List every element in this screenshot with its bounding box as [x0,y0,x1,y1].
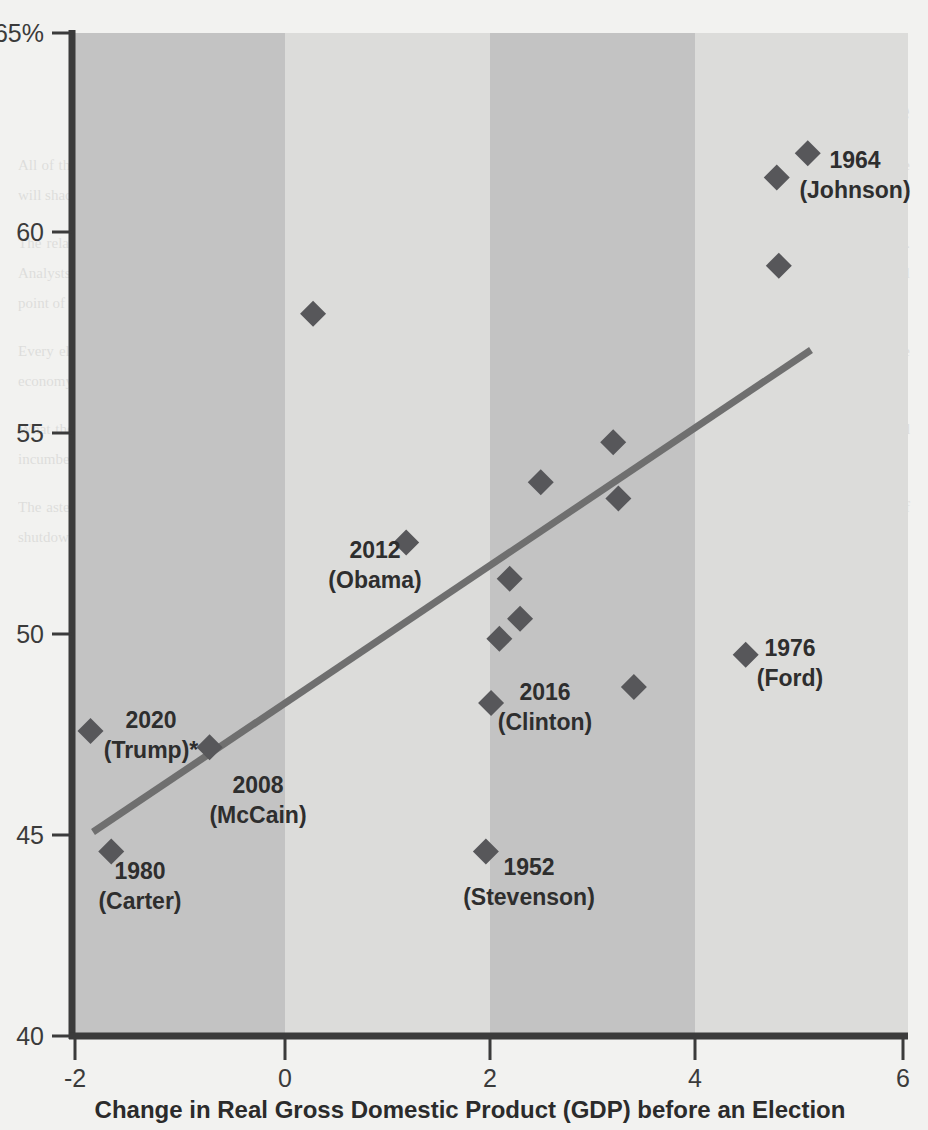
label-1976-name: (Ford) [757,665,823,691]
y-tick-label-60: 60 [16,218,44,246]
x-tick-label-2: 2 [483,1064,497,1092]
label-2020-name: (Trump)* [104,737,199,763]
y-axis: 65% 60 55 50 45 40 [0,19,72,1050]
band-dark-neg2-to-0 [72,33,285,1036]
label-2020-year: 2020 [125,707,176,733]
label-2016-name: (Clinton) [498,709,593,735]
label-1980-name: (Carter) [98,888,181,914]
y-tick-label-50: 50 [16,620,44,648]
label-2016-year: 2016 [519,679,570,705]
x-tick-label-0: 0 [278,1064,292,1092]
y-tick-label-40: 40 [16,1022,44,1050]
label-1964-year: 1964 [829,147,880,173]
label-1952-name: (Stevenson) [463,884,595,910]
x-tick-label-4: 4 [688,1064,702,1092]
label-2008-year: 2008 [232,772,283,798]
label-1976-year: 1976 [764,635,815,661]
x-tick-label-6: 6 [896,1064,910,1092]
label-1952-year: 1952 [503,854,554,880]
label-2008-name: (McCain) [209,802,306,828]
band-light-0-to-2 [285,33,490,1036]
y-tick-label-65: 65% [0,19,44,47]
chart-container: Setting the stage All of these are just … [0,0,928,1130]
y-tick-label-45: 45 [16,821,44,849]
scatter-plot: 65% 60 55 50 45 40 -2 0 2 4 6 Change in … [0,0,928,1130]
label-1980-year: 1980 [114,858,165,884]
label-2012-year: 2012 [349,537,400,563]
y-tick-label-55: 55 [16,419,44,447]
label-2012-name: (Obama) [328,567,421,593]
x-tick-label-neg2: -2 [64,1064,86,1092]
x-axis-title: Change in Real Gross Domestic Product (G… [95,1096,846,1123]
label-1964-name: (Johnson) [799,177,910,203]
x-axis: -2 0 2 4 6 Change in Real Gross Domestic… [64,1036,910,1123]
